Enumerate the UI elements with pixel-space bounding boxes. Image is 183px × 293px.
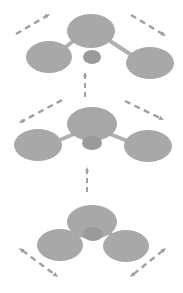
motion-arrow-mid-right-shaft [125,101,160,118]
stage-transition-arrow-up-upper [83,72,87,97]
right-child-node [126,47,174,79]
right-child-node [103,230,149,262]
motion-arrow-up-right-shaft [131,15,162,34]
arrow-head [158,116,164,120]
motion-arrow-mid-left [19,100,62,123]
motion-arrow-mid-left-shaft [23,100,62,121]
center-small-node [83,227,103,241]
parent-node [67,14,115,48]
parent-node [67,107,117,141]
motion-arrow-mid-right [125,101,164,120]
stage-transition-arrow-up-lower [85,167,89,192]
bond-parent-right [110,41,133,56]
center-small-node [83,50,101,64]
center-small-node [82,136,102,150]
diagram-root [0,0,183,293]
motion-arrow-up-left-shaft [16,16,46,34]
arrow-head [85,167,89,172]
left-child-node [26,41,72,73]
right-child-node [124,130,172,162]
left-child-node [37,229,83,261]
motion-arrow-up-right [131,15,166,36]
nodes-layer [14,14,174,262]
diagram-canvas [0,0,183,293]
arrow-head [53,272,58,277]
left-child-node [14,129,62,161]
motion-arrow-up-left [16,14,50,34]
arrow-head [83,72,87,77]
